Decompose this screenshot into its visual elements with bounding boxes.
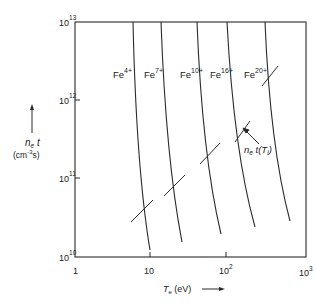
svg-text:1012: 1012	[59, 92, 77, 106]
svg-text:10: 10	[144, 266, 154, 276]
svg-text:1013: 1013	[59, 14, 77, 28]
svg-text:(cm-3s): (cm-3s)	[13, 149, 40, 160]
curve-fe10	[197, 22, 221, 234]
label-fe7: Fe7+	[144, 67, 163, 80]
y-axis-label: ne t (cm-3s)	[13, 104, 41, 160]
curve-fe16	[227, 22, 255, 227]
svg-text:1010: 1010	[59, 249, 77, 263]
annotation-arrow	[243, 128, 259, 144]
svg-text:1011: 1011	[59, 170, 76, 184]
svg-text:Te (eV): Te (eV)	[163, 284, 191, 295]
svg-text:ne t: ne t	[25, 137, 41, 149]
chart: Fe4+ Fe7+ Fe10+ Fe16+ Fe20+ ne t(Ti) ne …	[0, 0, 315, 303]
label-fe20: Fe20+	[244, 67, 267, 80]
curve-fe20	[265, 22, 290, 221]
ion-curves	[133, 22, 290, 250]
y-tick-labels: 1013 1012 1011 1010	[59, 14, 77, 263]
x-axis-label: Te (eV)	[163, 284, 225, 295]
curve-fe7	[161, 22, 182, 242]
svg-text:102: 102	[219, 263, 233, 276]
label-fe16: Fe16+	[210, 67, 233, 80]
curve-fe4	[133, 22, 150, 250]
svg-text:103: 103	[299, 265, 313, 278]
svg-text:1: 1	[73, 266, 78, 276]
label-fe4: Fe4+	[113, 67, 132, 80]
plot-frame	[75, 22, 306, 257]
annotation-label: ne t(Ti)	[244, 144, 272, 156]
x-tick-labels: 1 10 102 103	[73, 263, 313, 278]
